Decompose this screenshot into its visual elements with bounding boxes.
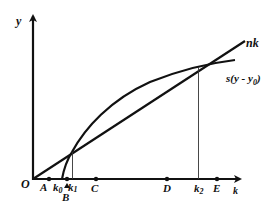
k0-label: k0	[53, 181, 63, 195]
origin-label: O	[21, 177, 30, 191]
point-D-label: D	[162, 182, 171, 194]
point-C-label: C	[91, 182, 99, 194]
saving-curve	[62, 60, 235, 179]
y-axis-label: y	[14, 14, 22, 28]
point-D-dot	[165, 177, 169, 181]
point-A-dot	[47, 177, 51, 181]
saving-curve-label: s(y - y0)	[225, 72, 261, 87]
point-C-dot	[94, 177, 98, 181]
x-axis-label: k	[233, 185, 238, 196]
point-E-dot	[215, 177, 219, 181]
nk-line	[33, 41, 245, 179]
point-E-label: E	[212, 182, 220, 194]
point-A-label: A	[39, 181, 47, 193]
nk-label: nk	[246, 36, 259, 50]
k2-label: k2	[194, 182, 204, 196]
k1-label: k1	[68, 181, 78, 194]
solow-diagram: y O k nk s(y - y0) A B C D E k0 k1 k2	[0, 0, 271, 208]
